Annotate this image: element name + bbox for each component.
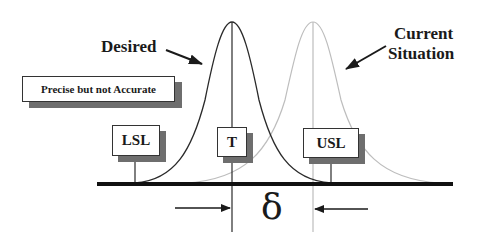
usl-text: USL bbox=[316, 135, 345, 152]
lsl-box: LSL bbox=[112, 125, 160, 156]
precise-not-accurate-text: Precise but not Accurate bbox=[41, 83, 156, 95]
usl-box: USL bbox=[303, 128, 359, 158]
lsl-text: LSL bbox=[122, 132, 150, 149]
current-situation-label-line2: Situation bbox=[388, 44, 454, 64]
current-arrow-icon bbox=[346, 46, 386, 69]
diagram-canvas: Desired Current Situation Precise but no… bbox=[0, 0, 485, 247]
delta-symbol: δ bbox=[261, 186, 283, 227]
desired-label: Desired bbox=[101, 37, 156, 57]
target-text: T bbox=[227, 134, 237, 151]
precise-not-accurate-box: Precise but not Accurate bbox=[22, 76, 175, 102]
current-situation-label-line1: Current bbox=[394, 24, 453, 44]
desired-arrow-icon bbox=[166, 50, 202, 64]
target-box: T bbox=[217, 127, 247, 157]
